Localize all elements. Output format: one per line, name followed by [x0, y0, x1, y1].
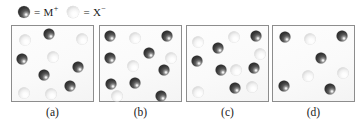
- legend-charge-cation: +: [54, 4, 59, 13]
- cation-sphere: [216, 65, 227, 76]
- legend: = M+ = X−: [18, 3, 115, 20]
- anion-sphere: [20, 35, 31, 46]
- cation-sphere: [130, 78, 141, 89]
- cation-sphere: [39, 70, 50, 81]
- anion-sphere: [77, 34, 88, 45]
- legend-species-cation: M: [44, 6, 54, 18]
- figure-container: = M+ = X− (a) (b) (c) (d): [0, 0, 355, 127]
- legend-entry-cation: = M+: [18, 6, 58, 18]
- panel-b: (b): [99, 25, 182, 102]
- cation-sphere: [249, 63, 260, 74]
- panel-a: (a): [11, 25, 94, 102]
- anion-sphere: [303, 71, 314, 82]
- anion-sphere: [305, 34, 316, 45]
- panel-c: (c): [186, 25, 269, 102]
- cation-sphere: [105, 31, 116, 42]
- cation-sphere: [192, 56, 203, 67]
- legend-equals-anion: =: [83, 6, 90, 18]
- panel-d: (d): [272, 25, 355, 102]
- anion-sphere: [193, 37, 204, 48]
- dark-sphere-icon: [18, 6, 30, 18]
- cation-sphere: [279, 81, 290, 92]
- cation-sphere: [316, 53, 327, 64]
- cation-sphere: [17, 54, 28, 65]
- legend-equals-cation: =: [34, 6, 41, 18]
- legend-entry-anion: = X−: [67, 6, 106, 18]
- panel-c-caption: (c): [186, 106, 269, 118]
- panel-a-particles: [11, 25, 94, 102]
- anion-sphere: [112, 91, 123, 102]
- cation-sphere: [337, 31, 348, 42]
- anion-sphere: [46, 89, 57, 100]
- anion-sphere: [128, 61, 139, 72]
- panel-d-caption: (d): [272, 106, 355, 118]
- legend-label-cation: = M+: [34, 6, 58, 18]
- anion-sphere: [19, 88, 30, 99]
- legend-label-anion: = X−: [83, 6, 106, 18]
- legend-charge-anion: −: [101, 4, 106, 13]
- anion-sphere: [255, 49, 266, 60]
- anion-sphere: [231, 65, 242, 76]
- anion-sphere: [193, 87, 204, 98]
- panel-c-particles: [186, 25, 269, 102]
- cation-sphere: [162, 31, 173, 42]
- cation-sphere: [106, 79, 117, 90]
- light-sphere-icon: [67, 6, 79, 18]
- cation-sphere: [65, 81, 76, 92]
- cation-sphere: [105, 53, 116, 64]
- anion-sphere: [247, 82, 258, 93]
- cation-sphere: [230, 83, 241, 94]
- anion-sphere: [229, 32, 240, 43]
- panel-b-particles: [99, 25, 182, 102]
- panel-d-particles: [272, 25, 355, 102]
- cation-sphere: [325, 84, 336, 95]
- cation-sphere: [44, 29, 55, 40]
- cation-sphere: [251, 31, 262, 42]
- panel-a-caption: (a): [11, 106, 94, 118]
- cation-sphere: [280, 32, 291, 43]
- panel-b-caption: (b): [99, 106, 182, 118]
- anion-sphere: [130, 33, 141, 44]
- cation-sphere: [213, 43, 224, 54]
- cation-sphere: [144, 48, 155, 59]
- cation-sphere: [73, 62, 84, 73]
- anion-sphere: [338, 68, 349, 79]
- anion-sphere: [48, 52, 59, 63]
- cation-sphere: [156, 91, 167, 102]
- anion-sphere: [166, 53, 177, 64]
- cation-sphere: [159, 65, 170, 76]
